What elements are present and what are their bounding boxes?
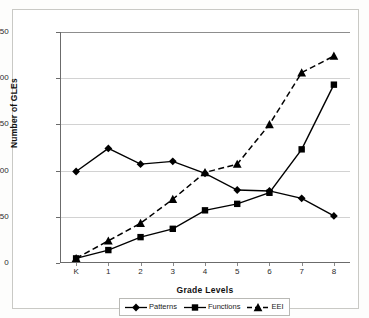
- legend-label: EEI: [271, 303, 283, 311]
- y-axis-title-holder: Number of GLEs: [31, 70, 45, 210]
- series-layer: [60, 32, 350, 263]
- triangle-icon: [247, 303, 269, 312]
- data-point-marker: [298, 146, 304, 152]
- x-tick-label: 8: [332, 268, 336, 276]
- data-point-marker: [132, 303, 140, 311]
- x-tick-label: 2: [138, 268, 142, 276]
- data-point-marker: [329, 52, 338, 60]
- x-tick-label: K: [73, 268, 78, 276]
- data-point-marker: [298, 194, 306, 202]
- data-point-marker: [266, 190, 272, 196]
- x-tick-label: 7: [299, 268, 303, 276]
- x-tick-mark: [237, 263, 238, 266]
- x-tick-mark: [76, 263, 77, 266]
- data-point-marker: [137, 160, 145, 168]
- x-tick-label: 6: [267, 268, 271, 276]
- legend-item-patterns[interactable]: Patterns: [125, 303, 177, 312]
- data-point-marker: [265, 120, 274, 128]
- x-tick-label: 3: [171, 268, 175, 276]
- legend-item-functions[interactable]: Functions: [184, 303, 241, 312]
- data-point-marker: [233, 186, 241, 194]
- data-point-marker: [297, 68, 306, 76]
- x-tick-label: 4: [203, 268, 207, 276]
- y-tick-label: 200: [0, 74, 9, 82]
- data-point-marker: [104, 236, 113, 244]
- square-icon: [184, 303, 206, 312]
- y-axis-title: Number of GLEs: [9, 78, 19, 148]
- diamond-icon: [125, 303, 147, 312]
- plot-area: 050100150200250 K12345678 Grade Levels: [60, 32, 350, 263]
- x-tick-mark: [108, 263, 109, 266]
- x-axis-title: Grade Levels: [60, 285, 350, 295]
- chart-legend: PatternsFunctionsEEI: [119, 298, 290, 316]
- chart-frame: Number of GLEs 050100150200250 K12345678…: [12, 9, 359, 309]
- y-tick-label: 100: [0, 167, 9, 175]
- x-tick-mark: [334, 263, 335, 266]
- data-point-marker: [254, 303, 263, 311]
- y-tick-label: 0: [0, 259, 9, 267]
- data-point-marker: [192, 304, 198, 310]
- x-tick-mark: [205, 263, 206, 266]
- x-tick-mark: [269, 263, 270, 266]
- chart-page: Number of GLEs 050100150200250 K12345678…: [0, 0, 369, 318]
- data-point-marker: [105, 247, 111, 253]
- x-tick-mark: [141, 263, 142, 266]
- data-point-marker: [331, 81, 337, 87]
- data-point-marker: [202, 207, 208, 213]
- data-point-marker: [330, 212, 338, 220]
- y-tick-label: 150: [0, 120, 9, 128]
- data-point-marker: [137, 234, 143, 240]
- legend-label: Functions: [208, 303, 241, 311]
- y-tick-label: 50: [0, 213, 9, 221]
- x-tick-label: 5: [235, 268, 239, 276]
- data-point-marker: [169, 157, 177, 165]
- data-point-marker: [170, 226, 176, 232]
- x-tick-mark: [302, 263, 303, 266]
- y-tick-mark: [56, 263, 60, 264]
- data-point-marker: [234, 201, 240, 207]
- legend-item-eei[interactable]: EEI: [247, 303, 283, 312]
- y-tick-label: 250: [0, 28, 9, 36]
- x-tick-label: 1: [106, 268, 110, 276]
- x-tick-mark: [173, 263, 174, 266]
- legend-label: Patterns: [149, 303, 177, 311]
- series-eei: [72, 52, 339, 262]
